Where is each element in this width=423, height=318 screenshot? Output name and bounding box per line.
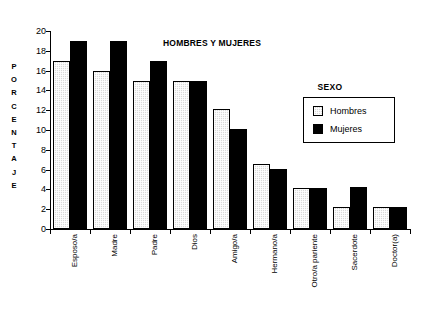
bar-hombres — [373, 207, 390, 229]
y-axis-title: PORCENTAJE — [8, 60, 20, 192]
bar-group — [173, 31, 207, 229]
y-axis-title-letter: N — [11, 126, 16, 139]
y-axis-tick-mark — [46, 90, 51, 91]
legend-item-hombres: Hombres — [313, 106, 367, 116]
legend: Hombres Mujeres — [303, 97, 395, 143]
y-axis-tick-label: 20 — [36, 26, 46, 36]
legend-swatch-mujeres — [313, 124, 323, 134]
bar-hombres — [53, 61, 70, 229]
bar-mujeres — [390, 207, 407, 229]
bar-hombres — [93, 71, 110, 229]
bar-mujeres — [190, 81, 207, 230]
y-axis-tick-mark — [46, 209, 51, 210]
y-axis-title-letter: O — [11, 73, 17, 86]
bar-group — [133, 31, 167, 229]
y-axis-title-letter: J — [12, 166, 16, 179]
bar-group — [53, 31, 87, 229]
y-axis-title-letter: T — [12, 139, 17, 152]
bar-mujeres — [350, 187, 367, 229]
bar-hombres — [293, 188, 310, 229]
x-axis-label: Doctor(a) — [390, 234, 399, 267]
bar-mujeres — [70, 41, 87, 229]
y-axis-tick-mark — [46, 170, 51, 171]
y-axis-tick-mark — [46, 130, 51, 131]
x-axis-line — [50, 229, 410, 230]
y-axis-tick-label: 16 — [36, 66, 46, 76]
y-axis-title-letter: R — [11, 86, 16, 99]
bar-mujeres — [310, 188, 327, 229]
y-axis-title-letter: A — [11, 152, 16, 165]
legend-item-mujeres: Mujeres — [313, 124, 362, 134]
x-axis-label: Padre — [150, 234, 159, 255]
y-axis-tick-label: 18 — [36, 46, 46, 56]
y-axis-tick-mark — [46, 110, 51, 111]
legend-label-mujeres: Mujeres — [330, 124, 362, 134]
bar-hombres — [333, 207, 350, 229]
bar-mujeres — [150, 61, 167, 229]
legend-title: SEXO — [318, 82, 343, 92]
x-axis-label: Amigo/a — [230, 234, 239, 263]
x-axis-label: Dios — [190, 234, 199, 250]
y-axis-tick-label: 14 — [36, 85, 46, 95]
x-axis-category-labels: Esposo/aMadrePadreDiosAmigo/aHermano/aOt… — [50, 234, 410, 318]
chart-title: HOMBRES Y MUJERES — [163, 38, 261, 48]
y-axis-tick-mark — [46, 189, 51, 190]
y-axis-tick-label: 12 — [36, 105, 46, 115]
bar-mujeres — [230, 129, 247, 229]
y-axis-title-letter: E — [11, 179, 16, 192]
x-axis-label: Hermano/a — [270, 234, 279, 274]
bar-hombres — [253, 164, 270, 229]
y-axis-tick-mark — [46, 150, 51, 151]
x-axis-label: Sacerdote — [350, 234, 359, 270]
bar-hombres — [173, 81, 190, 230]
bar-chart: PORCENTAJE 02468101214161820 HOMBRES Y M… — [0, 0, 423, 318]
x-axis-tick-mark — [410, 229, 411, 234]
y-axis-tick-mark — [46, 71, 51, 72]
bar-group — [253, 31, 287, 229]
y-axis-tick-labels: 02468101214161820 — [22, 0, 46, 318]
x-axis-label: Esposo/a — [70, 234, 79, 267]
legend-swatch-hombres — [313, 106, 323, 116]
legend-label-hombres: Hombres — [330, 106, 367, 116]
y-axis-tick-mark — [46, 31, 51, 32]
bar-mujeres — [270, 169, 287, 229]
y-axis-title-letter: P — [11, 60, 16, 73]
bar-hombres — [213, 109, 230, 229]
bar-mujeres — [110, 41, 127, 229]
bar-group — [213, 31, 247, 229]
x-axis-label: Otro/a pariente — [310, 234, 319, 287]
y-axis-title-letter: C — [11, 100, 16, 113]
x-axis-label: Madre — [110, 234, 119, 257]
bar-group — [93, 31, 127, 229]
y-axis-tick-mark — [46, 51, 51, 52]
bar-hombres — [133, 81, 150, 230]
y-axis-title-letter: E — [11, 113, 16, 126]
y-axis-tick-label: 10 — [36, 125, 46, 135]
